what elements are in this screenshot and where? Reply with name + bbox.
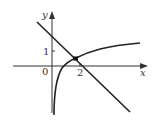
decreasing-line: [37, 22, 130, 112]
x-axis-label: x: [140, 67, 146, 78]
origin-label: 0: [42, 66, 48, 77]
intersection-point: [73, 57, 78, 61]
y-axis-arrow-icon: [49, 11, 55, 19]
function-graph: y x 0 1 2: [0, 0, 155, 122]
x-tick-label: 2: [77, 67, 83, 78]
y-axis-label: y: [41, 9, 48, 20]
y-tick-label: 1: [43, 46, 49, 57]
